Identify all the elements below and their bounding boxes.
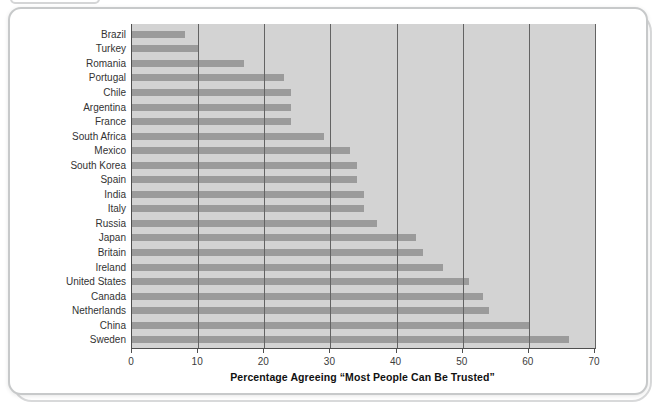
category-label-britain: Britain xyxy=(10,245,126,260)
tick-label-20: 20 xyxy=(250,356,276,368)
tick-label-30: 30 xyxy=(316,356,342,368)
bar-sweden xyxy=(132,336,569,343)
tick-mark-20 xyxy=(263,349,264,353)
category-label-united-states: United States xyxy=(10,274,126,289)
tick-mark-10 xyxy=(197,349,198,353)
page: { "chart_data": { "type": "bar", "orient… xyxy=(0,0,664,406)
category-label-sweden: Sweden xyxy=(10,332,126,347)
tick-label-0: 0 xyxy=(118,356,144,368)
category-label-china: China xyxy=(10,318,126,333)
bar-romania xyxy=(132,60,244,67)
chart-card: BrazilTurkeyRomaniaPortugalChileArgentin… xyxy=(8,7,648,395)
tick-label-40: 40 xyxy=(383,356,409,368)
category-label-france: France xyxy=(10,114,126,129)
category-label-ireland: Ireland xyxy=(10,260,126,275)
category-label-india: India xyxy=(10,187,126,202)
category-label-canada: Canada xyxy=(10,289,126,304)
bar-ireland xyxy=(132,264,443,271)
bar-russia xyxy=(132,220,377,227)
category-label-brazil: Brazil xyxy=(10,27,126,42)
bar-row-spain xyxy=(132,172,595,187)
bar-japan xyxy=(132,234,416,241)
category-label-chile: Chile xyxy=(10,85,126,100)
bar-italy xyxy=(132,205,364,212)
tick-label-70: 70 xyxy=(581,356,607,368)
bar-row-canada xyxy=(132,289,595,304)
plot-area xyxy=(131,24,596,349)
bar-south-korea xyxy=(132,162,357,169)
bar-row-united-states xyxy=(132,274,595,289)
tick-mark-30 xyxy=(329,349,330,353)
bar-row-japan xyxy=(132,231,595,246)
bar-turkey xyxy=(132,45,198,52)
x-axis-ticks xyxy=(131,349,594,354)
bar-row-ireland xyxy=(132,260,595,275)
tick-mark-70 xyxy=(594,349,595,353)
bar-row-india xyxy=(132,187,595,202)
tick-label-10: 10 xyxy=(184,356,210,368)
bar-china xyxy=(132,322,529,329)
category-labels-column: BrazilTurkeyRomaniaPortugalChileArgentin… xyxy=(10,24,131,348)
bar-row-china xyxy=(132,318,595,333)
category-label-portugal: Portugal xyxy=(10,71,126,86)
bars-layer xyxy=(132,24,595,348)
bar-south-africa xyxy=(132,133,324,140)
x-axis-title: Percentage Agreeing “Most People Can Be … xyxy=(121,371,604,383)
bar-row-chile xyxy=(132,85,595,100)
category-label-japan: Japan xyxy=(10,231,126,246)
bar-brazil xyxy=(132,31,185,38)
category-label-romania: Romania xyxy=(10,56,126,71)
bar-row-brazil xyxy=(132,27,595,42)
bar-row-italy xyxy=(132,202,595,217)
tick-mark-0 xyxy=(131,349,132,353)
bar-united-states xyxy=(132,278,469,285)
bar-row-turkey xyxy=(132,42,595,57)
tick-mark-50 xyxy=(462,349,463,353)
bar-row-russia xyxy=(132,216,595,231)
category-label-mexico: Mexico xyxy=(10,143,126,158)
tick-mark-60 xyxy=(528,349,529,353)
category-label-spain: Spain xyxy=(10,172,126,187)
bar-portugal xyxy=(132,74,284,81)
bar-row-mexico xyxy=(132,143,595,158)
bar-chile xyxy=(132,89,291,96)
bar-row-britain xyxy=(132,245,595,260)
bar-india xyxy=(132,191,364,198)
tick-label-50: 50 xyxy=(449,356,475,368)
bar-spain xyxy=(132,176,357,183)
bar-france xyxy=(132,118,291,125)
bar-row-france xyxy=(132,114,595,129)
bar-row-south-korea xyxy=(132,158,595,173)
bar-row-netherlands xyxy=(132,303,595,318)
bar-row-argentina xyxy=(132,100,595,115)
category-label-russia: Russia xyxy=(10,216,126,231)
x-axis-tick-labels: 010203040506070 xyxy=(131,356,594,368)
bar-britain xyxy=(132,249,423,256)
bar-row-sweden xyxy=(132,332,595,347)
category-label-south-africa: South Africa xyxy=(10,129,126,144)
category-label-italy: Italy xyxy=(10,202,126,217)
bar-row-portugal xyxy=(132,71,595,86)
tick-label-60: 60 xyxy=(515,356,541,368)
category-label-argentina: Argentina xyxy=(10,100,126,115)
bar-row-romania xyxy=(132,56,595,71)
bar-canada xyxy=(132,293,483,300)
category-label-turkey: Turkey xyxy=(10,42,126,57)
bar-argentina xyxy=(132,104,291,111)
bar-mexico xyxy=(132,147,350,154)
category-label-south-korea: South Korea xyxy=(10,158,126,173)
category-label-netherlands: Netherlands xyxy=(10,303,126,318)
cropped-tab-fragment xyxy=(10,0,100,4)
bar-netherlands xyxy=(132,307,489,314)
bar-row-south-africa xyxy=(132,129,595,144)
tick-mark-40 xyxy=(396,349,397,353)
